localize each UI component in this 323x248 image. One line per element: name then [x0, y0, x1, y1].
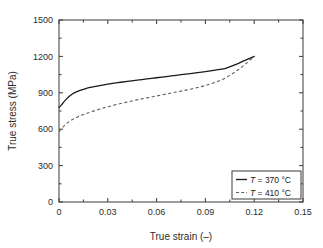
legend: T = 370 °C T = 410 °C — [232, 171, 301, 199]
chart-figure: 030060090012001500 00.030.060.090.120.15… — [0, 0, 323, 248]
x-tick-label: 0 — [56, 207, 61, 217]
stress-strain-plot: 030060090012001500 00.030.060.090.120.15… — [0, 0, 323, 248]
legend-label-370c: T = 370 °C — [250, 175, 291, 185]
y-tick-label: 900 — [38, 88, 53, 98]
y-tick-label: 600 — [38, 124, 53, 134]
legend-label-410c: T = 410 °C — [250, 188, 291, 198]
x-tick-label: 0.12 — [245, 207, 263, 217]
x-tick-label: 0.15 — [294, 207, 312, 217]
x-tick-label: 0.06 — [148, 207, 166, 217]
legend-value-1: = 370 °C — [255, 175, 291, 185]
legend-value-2: = 410 °C — [255, 188, 291, 198]
y-tick-label: 1500 — [33, 15, 53, 25]
y-tick-label: 0 — [48, 197, 53, 207]
x-axis-title: True strain (–) — [150, 231, 212, 242]
x-tick-label: 0.09 — [197, 207, 215, 217]
y-axis-title: True stress (MPa) — [7, 71, 18, 151]
x-tick-label: 0.03 — [99, 207, 117, 217]
y-tick-label: 300 — [38, 161, 53, 171]
y-tick-label: 1200 — [33, 52, 53, 62]
